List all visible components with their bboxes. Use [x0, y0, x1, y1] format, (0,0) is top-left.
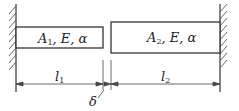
right-fixed-support — [220, 4, 227, 92]
bar-1-label: A1, E, α — [37, 31, 88, 47]
bar-gap-diagram: A1, E, α A2, E, α l1 l2 δ — [0, 0, 239, 111]
dim-l1-label: l1 — [55, 69, 64, 85]
bar-2-label: A2, E, α — [146, 30, 197, 46]
dimension-lines — [16, 82, 220, 98]
left-fixed-support — [9, 4, 16, 92]
dim-l2-label: l2 — [161, 69, 170, 85]
gap-delta-label: δ — [89, 94, 97, 109]
